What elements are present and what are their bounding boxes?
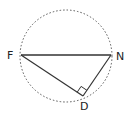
label-d: D: [80, 100, 88, 113]
geometry-diagram: F N D: [0, 0, 132, 121]
label-n: N: [116, 50, 124, 63]
segment-fd: [21, 55, 83, 96]
circumscribed-circle: [20, 10, 112, 102]
segment-dn: [83, 55, 111, 96]
right-angle-marker: [77, 86, 87, 92]
label-f: F: [7, 49, 13, 62]
